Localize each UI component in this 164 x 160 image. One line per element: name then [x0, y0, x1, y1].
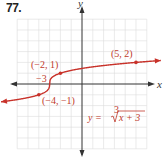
data-point	[59, 71, 63, 75]
point-label-5-2: (5, 2)	[111, 48, 133, 60]
point-label-neg2-1: (−2, 1)	[31, 59, 58, 71]
data-point	[134, 61, 138, 65]
x-axis-right-arrow-icon	[148, 82, 155, 87]
point-label-neg3: −3	[36, 73, 47, 84]
graph: x y (5, 2) (−2, 1) −3 (−4, −1) y = 3 x +…	[0, 0, 164, 160]
y-axis-label: y	[77, 0, 83, 9]
x-axis-label: x	[156, 78, 162, 90]
y-axis-down-arrow-icon	[80, 150, 85, 157]
point-label-neg4-neg1: (−4, −1)	[42, 95, 75, 107]
curve-right-arrow-icon	[155, 58, 161, 63]
curve	[1, 58, 161, 103]
curve-path	[1, 61, 161, 102]
axes: x y	[10, 0, 162, 157]
data-point	[37, 93, 41, 97]
x-axis-left-arrow-icon	[10, 82, 17, 87]
equation-radicand: x + 3	[118, 112, 140, 123]
equation-lhs: y =	[87, 112, 102, 123]
